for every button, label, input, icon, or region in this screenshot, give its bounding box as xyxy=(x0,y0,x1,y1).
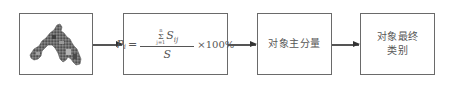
equals-sign: = xyxy=(128,38,137,51)
numerator: n Σ j=1 Sij xyxy=(140,28,194,47)
formula-box: pi = n Σ j=1 Sij S ×100% xyxy=(123,13,228,75)
flow-arrow-3 xyxy=(332,44,359,46)
formula-lhs: pi xyxy=(117,36,126,51)
summation-icon: n Σ j=1 xyxy=(156,28,165,45)
raster-map-image xyxy=(26,21,86,67)
denominator: S xyxy=(164,47,172,61)
main-component-box: 对象主分量 xyxy=(257,13,332,75)
sum-term: Sij xyxy=(166,29,178,44)
input-image-box xyxy=(19,13,93,75)
flow-arrow-2 xyxy=(228,44,256,46)
final-class-label-line1: 对象最终 xyxy=(377,30,419,44)
final-class-box: 对象最终 类别 xyxy=(360,13,435,75)
final-class-label: 对象最终 类别 xyxy=(377,30,419,58)
final-class-label-line2: 类别 xyxy=(377,44,419,58)
main-component-label: 对象主分量 xyxy=(268,37,321,51)
proportion-formula: pi = n Σ j=1 Sij S ×100% xyxy=(117,28,234,61)
fraction: n Σ j=1 Sij S xyxy=(140,28,194,61)
